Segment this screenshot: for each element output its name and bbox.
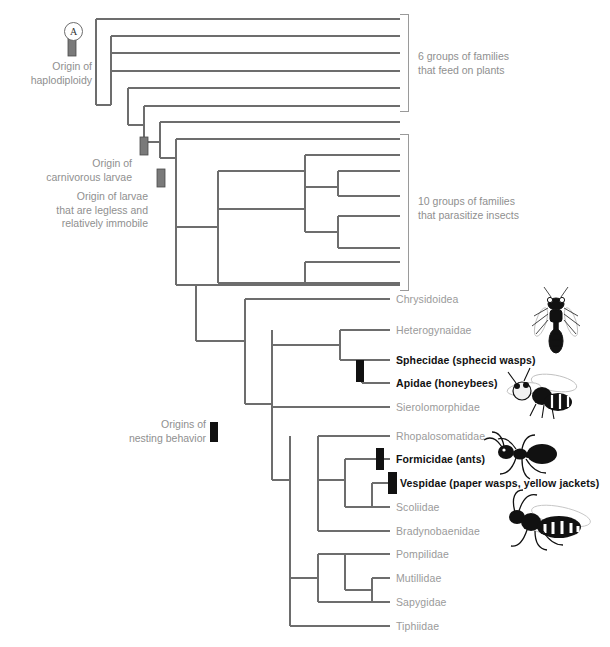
group-bracket-plant-feeders — [400, 14, 408, 111]
node-a-marker: A — [64, 22, 83, 41]
taxon-label-sierolomorphidae[interactable]: Sierolomorphidae — [396, 401, 480, 413]
taxon-label-pompilidae[interactable]: Pompilidae — [396, 548, 449, 560]
phylogeny-canvas — [0, 0, 610, 647]
event-label-nesting-behavior: Origins of nesting behavior — [88, 418, 206, 445]
ant-illustration — [484, 432, 557, 479]
taxon-label-apidae[interactable]: Apidae (honeybees) — [396, 377, 498, 389]
group-bracket-parasitoids — [400, 134, 408, 290]
taxon-label-rhopalosomatidae[interactable]: Rhopalosomatidae — [396, 430, 485, 442]
event-label-carnivorous-larvae: Origin of carnivorous larvae — [10, 157, 132, 184]
group-label-parasitoids: 10 groups of families that parasitize in… — [418, 195, 578, 222]
event-marker-nesting-sphecidae-apidae — [356, 360, 364, 382]
paper-wasp-illustration — [509, 490, 592, 550]
event-marker-nesting-formicidae — [376, 448, 384, 470]
event-label-haplodiploidy: Origin of haplodiploidy — [6, 60, 92, 87]
taxon-label-vespidae[interactable]: Vespidae (paper wasps, yellow jackets) — [400, 477, 599, 489]
taxon-label-mutillidae[interactable]: Mutillidae — [396, 572, 441, 584]
event-marker-nesting-legend — [210, 422, 218, 442]
taxon-label-formicidae[interactable]: Formicidae (ants) — [396, 453, 485, 465]
taxon-label-bradynobaenidae[interactable]: Bradynobaenidae — [396, 525, 480, 537]
event-marker-carnivorous-larvae — [140, 137, 148, 155]
honeybee-illustration — [506, 368, 578, 419]
taxon-label-heterogynaidae[interactable]: Heterogynaidae — [396, 324, 472, 336]
taxon-label-tiphiidae[interactable]: Tiphiidae — [396, 620, 439, 632]
sphecid-wasp-illustration — [532, 287, 581, 353]
taxon-label-sphecidae[interactable]: Sphecidae (sphecid wasps) — [396, 354, 536, 366]
taxon-label-chrysidoidea[interactable]: Chrysidoidea — [396, 293, 458, 305]
event-marker-nesting-vespidae — [388, 472, 397, 494]
event-label-legless-larvae: Origin of larvae that are legless and re… — [10, 190, 148, 231]
event-marker-legless-larvae — [157, 169, 165, 187]
taxon-label-scoliidae[interactable]: Scoliidae — [396, 501, 440, 513]
taxon-label-sapygidae[interactable]: Sapygidae — [396, 596, 447, 608]
group-label-plant-feeders: 6 groups of families that feed on plants — [418, 50, 568, 77]
